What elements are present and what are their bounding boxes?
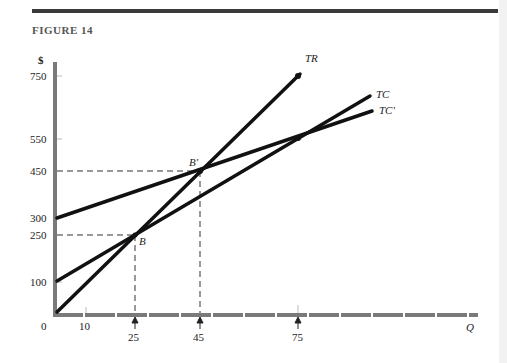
x-axis-symbol: Q — [466, 321, 474, 333]
tc-prime-label: TC' — [379, 104, 395, 116]
y-label-100: 100 — [30, 276, 47, 288]
tc-line — [57, 96, 370, 281]
tc-prime-line — [57, 111, 372, 218]
y-label-250: 250 — [30, 229, 47, 241]
y-label-550: 550 — [30, 133, 47, 145]
x-arrows — [132, 317, 301, 329]
x-label-10: 10 — [79, 320, 91, 332]
x-label-25: 25 — [128, 331, 140, 343]
y-ticks — [57, 76, 62, 282]
b-prime-label: B' — [189, 156, 199, 168]
y-label-300: 300 — [30, 212, 47, 224]
origin-label: 0 — [41, 320, 47, 332]
y-label-450: 450 — [30, 165, 47, 177]
x-label-45: 45 — [193, 331, 205, 343]
page-edge — [499, 0, 507, 363]
break-even-chart: $ Q 0 750 550 450 300 250 100 10 25 45 7… — [0, 0, 507, 363]
b-prime-point — [197, 168, 203, 174]
b-point — [133, 233, 138, 238]
tr-label: TR — [305, 52, 318, 64]
y-axis-symbol: $ — [38, 54, 44, 66]
tr-line — [57, 74, 300, 312]
tr-point-75 — [295, 73, 301, 79]
y-label-750: 750 — [30, 70, 47, 82]
b-label: B — [139, 235, 146, 247]
tc-label: TC — [376, 88, 390, 100]
x-label-75: 75 — [292, 331, 304, 343]
tc-intersection-point — [295, 135, 301, 141]
